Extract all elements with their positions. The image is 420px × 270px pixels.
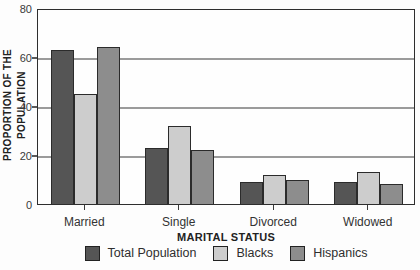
- y-tick-label-80: 80: [6, 3, 32, 15]
- chart-legend: Total PopulationBlacksHispanics: [37, 244, 415, 262]
- x-category-label-single: Single: [139, 216, 219, 229]
- bar-divorced-hispanics: [286, 180, 309, 205]
- x-tick-mark-widowed: [367, 205, 368, 210]
- y-tick-mark-20: [32, 155, 37, 156]
- bar-divorced-blacks: [263, 175, 286, 204]
- bar-married-blacks: [74, 94, 97, 204]
- legend-swatch-hispanics: [290, 246, 305, 261]
- gridline-60: [38, 58, 414, 59]
- bar-single-hispanics: [191, 150, 214, 204]
- y-tick-label-40: 40: [6, 101, 32, 113]
- bar-widowed-blacks: [357, 172, 380, 204]
- plot-area: [37, 9, 415, 205]
- bar-married-hispanics: [97, 47, 120, 204]
- legend-item-blacks: Blacks: [213, 246, 273, 261]
- y-tick-label-0: 0: [6, 199, 32, 211]
- legend-item-total-population: Total Population: [85, 246, 197, 261]
- x-category-label-married: Married: [44, 216, 124, 229]
- legend-label-hispanics: Hispanics: [313, 246, 367, 260]
- legend-label-blacks: Blacks: [236, 246, 273, 260]
- x-tick-mark-married: [84, 205, 85, 210]
- bar-divorced-total-population: [240, 182, 263, 204]
- bar-widowed-hispanics: [380, 184, 403, 204]
- legend-item-hispanics: Hispanics: [290, 246, 367, 261]
- bar-chart: PROPORTION OF THE POPULATION MARITAL STA…: [0, 0, 420, 270]
- bar-widowed-total-population: [334, 182, 357, 204]
- x-category-label-divorced: Divorced: [233, 216, 313, 229]
- x-category-label-widowed: Widowed: [328, 216, 408, 229]
- bar-single-total-population: [145, 148, 168, 204]
- bar-married-total-population: [51, 50, 74, 204]
- y-tick-mark-40: [32, 106, 37, 107]
- x-tick-mark-single: [178, 205, 179, 210]
- y-tick-mark-60: [32, 57, 37, 58]
- legend-label-total-population: Total Population: [108, 246, 197, 260]
- x-tick-mark-divorced: [273, 205, 274, 210]
- bar-single-blacks: [168, 126, 191, 204]
- x-axis-title: MARITAL STATUS: [37, 231, 415, 243]
- legend-swatch-blacks: [213, 246, 228, 261]
- y-tick-label-20: 20: [6, 150, 32, 162]
- y-tick-label-60: 60: [6, 52, 32, 64]
- legend-swatch-total-population: [85, 246, 100, 261]
